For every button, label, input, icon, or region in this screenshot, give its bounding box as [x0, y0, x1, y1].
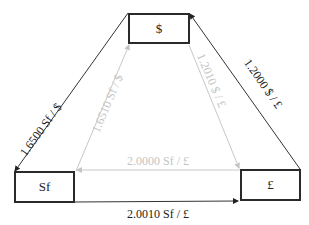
node-usd: $: [128, 13, 190, 44]
edge-usd-to-gbp-inner: [189, 45, 239, 168]
node-usd-label: $: [156, 21, 163, 37]
node-gbp-label: £: [267, 177, 274, 193]
label-gbp-usd: 1.2000 $ / £: [241, 56, 285, 111]
label-chf-usd-inner: 1.6510 Sf / $: [89, 72, 126, 135]
label-usd-chf: 1.6500 Sf / $: [17, 100, 65, 158]
label-gbp-chf-inner: 2.0000 Sf / £: [127, 154, 189, 168]
node-chf: Sf: [14, 171, 75, 203]
label-chf-gbp-bottom: 2.0010 Sf / £: [127, 207, 189, 221]
edge-chf-to-gbp: [74, 201, 238, 202]
node-gbp: £: [240, 169, 301, 201]
edge-gbp-to-usd: [190, 14, 300, 169]
node-chf-label: Sf: [39, 179, 51, 195]
